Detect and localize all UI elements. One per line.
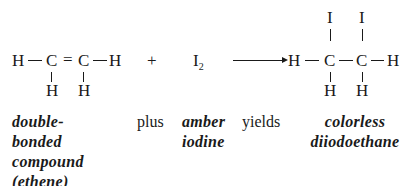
- atom-h-below-c1: H: [324, 82, 336, 99]
- atom-h-below-c2: H: [78, 82, 90, 99]
- label-line: (ethene): [12, 172, 84, 186]
- iodine-subscript: 2: [199, 61, 204, 72]
- atom-h-below-c2: H: [356, 82, 368, 99]
- single-bond: [339, 60, 353, 61]
- atom-c1: C: [46, 52, 57, 69]
- label-line: iodine: [182, 132, 225, 152]
- atom-i-above-c2: I: [359, 9, 365, 26]
- label-line: amber: [182, 112, 225, 132]
- label-line: bonded: [12, 132, 84, 152]
- label-line: colorless: [305, 112, 405, 132]
- atom-i-above-c1: I: [327, 9, 333, 26]
- atom-h-left: H: [288, 52, 300, 69]
- atom-h-below-c1: H: [46, 82, 58, 99]
- atom-c1: C: [324, 52, 335, 69]
- iodine-formula: I2: [193, 52, 204, 69]
- diiodoethane-label: colorless diiodoethane: [305, 112, 405, 152]
- label-line: double-: [12, 112, 84, 132]
- atom-h-right: H: [109, 52, 121, 69]
- atom-c2: C: [356, 52, 367, 69]
- label-line: compound: [12, 152, 84, 172]
- yields-word: yields: [242, 112, 280, 132]
- atom-h-left: H: [12, 52, 24, 69]
- ethene-label: double- bonded compound (ethene): [12, 112, 84, 186]
- plus-word: plus: [137, 112, 164, 132]
- atom-c2: C: [78, 52, 89, 69]
- iodine-label: amber iodine: [182, 112, 225, 152]
- single-bond: [330, 29, 331, 41]
- label-line: diiodoethane: [305, 132, 405, 152]
- single-bond: [305, 60, 319, 61]
- double-bond: =: [63, 51, 73, 68]
- single-bond: [93, 60, 107, 61]
- single-bond: [28, 60, 42, 61]
- atom-h-right: H: [387, 52, 399, 69]
- single-bond: [371, 60, 384, 61]
- single-bond: [362, 29, 363, 41]
- plus-symbol: +: [147, 52, 157, 69]
